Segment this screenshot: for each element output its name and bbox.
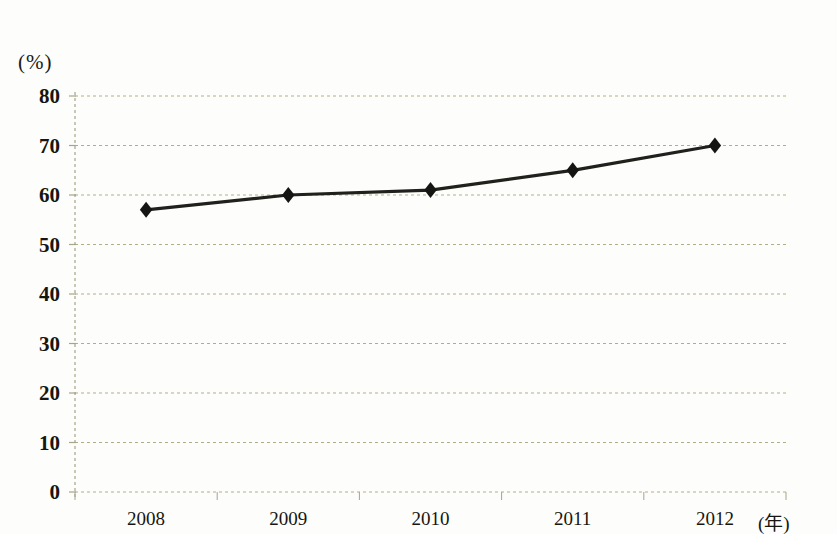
- x-axis-tick-label: 2011: [518, 508, 628, 530]
- y-axis-tick-label: 50: [8, 232, 60, 257]
- y-axis-tick-label: 40: [8, 282, 60, 307]
- x-axis-tick-label: 2010: [376, 508, 486, 530]
- gridlines-group: [75, 96, 786, 492]
- y-axis-tick-label: 20: [8, 381, 60, 406]
- line-chart: (%) 01020304050607080 200820092010201120…: [0, 0, 837, 534]
- y-axis-tick-label: 10: [8, 430, 60, 455]
- y-axis-tick-label: 80: [8, 84, 60, 109]
- y-axis-tick-label: 30: [8, 331, 60, 356]
- data-point-marker: [424, 182, 436, 198]
- x-axis-tick-label: 2009: [233, 508, 343, 530]
- data-point-marker: [282, 187, 294, 203]
- x-axis-ticks-group: [75, 492, 786, 500]
- y-axis-tick-label: 70: [8, 133, 60, 158]
- data-series-group: [140, 138, 721, 218]
- y-axis-tick-label: 0: [8, 480, 60, 505]
- data-point-marker: [709, 138, 721, 154]
- series-line: [146, 146, 715, 210]
- x-axis-unit-label: (年): [758, 508, 790, 534]
- y-axis-line-group: [69, 92, 76, 500]
- data-point-marker: [566, 162, 578, 178]
- x-axis-tick-label: 2012: [660, 508, 770, 530]
- data-point-marker: [140, 202, 152, 218]
- x-axis-tick-label: 2008: [91, 508, 201, 530]
- y-axis-tick-label: 60: [8, 183, 60, 208]
- plot-area: [0, 0, 837, 534]
